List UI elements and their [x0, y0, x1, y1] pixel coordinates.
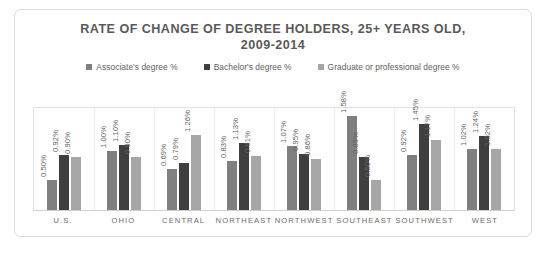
bar[interactable]	[419, 124, 429, 210]
bar-wrap: 1.02%	[491, 108, 501, 210]
bar-value-label: 1.58%	[339, 91, 348, 113]
bar-group: 0.92%1.45%1.17%	[394, 108, 454, 210]
category-label: NORTHEAST	[214, 213, 274, 229]
bar-group: 0.69%0.79%1.26%	[154, 108, 214, 210]
bar[interactable]	[407, 155, 417, 210]
group-divider	[214, 108, 215, 210]
category-label: NORTHWEST	[274, 213, 334, 229]
bar-value-label: 1.02%	[459, 124, 468, 146]
bar-wrap: 0.50%	[371, 108, 381, 210]
bar[interactable]	[467, 149, 477, 210]
chart-legend: Associate's degree % Bachelor's degree %…	[15, 62, 531, 72]
legend-item-associate[interactable]: Associate's degree %	[86, 62, 177, 72]
bar-wrap: 1.17%	[431, 108, 441, 210]
bar[interactable]	[371, 180, 381, 210]
bar-value-label: 1.00%	[99, 126, 108, 148]
bar-value-label: 1.07%	[279, 121, 288, 143]
legend-label-bachelor: Bachelor's degree %	[214, 62, 292, 72]
group-divider	[154, 108, 155, 210]
category-label: SOUTHWEST	[395, 213, 455, 229]
bar-wrap: 0.91%	[251, 108, 261, 210]
bar[interactable]	[311, 159, 321, 210]
bar[interactable]	[491, 149, 501, 210]
bar[interactable]	[347, 116, 357, 210]
bar[interactable]	[239, 143, 249, 210]
bar-wrap: 1.45%	[419, 108, 429, 210]
bar[interactable]	[479, 136, 489, 210]
chart-card: RATE OF CHANGE OF DEGREE HOLDERS, 25+ YE…	[14, 9, 532, 237]
bar[interactable]	[71, 157, 81, 210]
group-divider	[94, 108, 95, 210]
bar-value-label: 0.83%	[219, 136, 228, 158]
bar[interactable]	[227, 161, 237, 210]
category-label: SOUTHEAST	[334, 213, 394, 229]
legend-label-graduate: Graduate or professional degree %	[328, 62, 460, 72]
bar-wrap: 1.26%	[191, 108, 201, 210]
legend-label-associate: Associate's degree %	[96, 62, 177, 72]
bar[interactable]	[299, 154, 309, 210]
bar[interactable]	[191, 135, 201, 210]
bar-wrap: 0.69%	[167, 108, 177, 210]
bar-wrap: 1.10%	[119, 108, 129, 210]
bar-wrap: 0.90%	[71, 108, 81, 210]
bar-wrap: 0.92%	[59, 108, 69, 210]
bar-wrap: 1.07%	[287, 108, 297, 210]
bar-group: 1.00%1.10%0.90%	[94, 108, 154, 210]
bar[interactable]	[287, 146, 297, 210]
bar-wrap: 0.86%	[311, 108, 321, 210]
bar[interactable]	[179, 163, 189, 210]
bar-group: 1.07%0.95%0.86%	[274, 108, 334, 210]
bar-wrap: 0.50%	[47, 108, 57, 210]
bar[interactable]	[359, 157, 369, 210]
category-axis: U.S.OHIOCENTRALNORTHEASTNORTHWESTSOUTHEA…	[33, 213, 515, 229]
bar-wrap: 1.58%	[347, 108, 357, 210]
group-divider	[454, 108, 455, 210]
bar-wrap: 0.83%	[227, 108, 237, 210]
bar-wrap: 0.89%	[359, 108, 369, 210]
category-label: CENTRAL	[154, 213, 214, 229]
chart-title: RATE OF CHANGE OF DEGREE HOLDERS, 25+ YE…	[43, 21, 503, 53]
bar-value-label: 0.69%	[159, 144, 168, 166]
bar[interactable]	[131, 157, 141, 210]
category-label: OHIO	[93, 213, 153, 229]
bar-value-label: 0.92%	[399, 130, 408, 152]
group-divider	[274, 108, 275, 210]
bar-wrap: 1.00%	[107, 108, 117, 210]
category-label: U.S.	[33, 213, 93, 229]
chart-title-line-2: 2009-2014	[43, 37, 503, 53]
bar-group: 0.83%1.13%0.91%	[214, 108, 274, 210]
bar-wrap: 0.95%	[299, 108, 309, 210]
bar[interactable]	[107, 151, 117, 210]
bar-wrap: 0.92%	[407, 108, 417, 210]
bar[interactable]	[167, 169, 177, 210]
bar-wrap: 1.13%	[239, 108, 249, 210]
bar[interactable]	[119, 145, 129, 210]
bar-value-label: 0.50%	[39, 155, 48, 177]
bar[interactable]	[431, 140, 441, 210]
legend-item-bachelor[interactable]: Bachelor's degree %	[204, 62, 292, 72]
legend-swatch-graduate-icon	[318, 64, 324, 70]
group-divider	[394, 108, 395, 210]
legend-swatch-bachelor-icon	[204, 64, 210, 70]
bar-wrap: 1.02%	[467, 108, 477, 210]
plot-inner: 0.50%0.92%0.90%1.00%1.10%0.90%0.69%0.79%…	[34, 108, 514, 210]
bar-group: 0.50%0.92%0.90%	[34, 108, 94, 210]
bar-wrap: 0.90%	[131, 108, 141, 210]
bar[interactable]	[47, 180, 57, 210]
chart-title-line-1: RATE OF CHANGE OF DEGREE HOLDERS, 25+ YE…	[43, 21, 503, 37]
category-label: WEST	[455, 213, 515, 229]
bar-wrap: 1.24%	[479, 108, 489, 210]
bar-wrap: 0.79%	[179, 108, 189, 210]
legend-swatch-associate-icon	[86, 64, 92, 70]
legend-item-graduate[interactable]: Graduate or professional degree %	[318, 62, 460, 72]
bar-group: 1.02%1.24%1.02%	[454, 108, 514, 210]
bar[interactable]	[59, 155, 69, 210]
plot-area: 0.50%0.92%0.90%1.00%1.10%0.90%0.69%0.79%…	[33, 107, 515, 211]
bar[interactable]	[251, 156, 261, 210]
group-divider	[334, 108, 335, 210]
bar-group: 1.58%0.89%0.50%	[334, 108, 394, 210]
